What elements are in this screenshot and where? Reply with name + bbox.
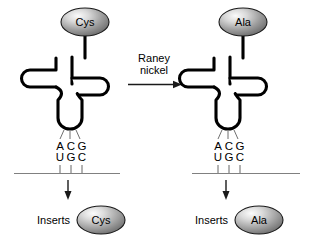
codon-base-2-left: G xyxy=(67,151,76,163)
insertion-arrow-left xyxy=(65,180,72,200)
figure-root: A C G U G C Inserts xyxy=(0,0,310,239)
inserted-amino-acid-oval-right: Ala xyxy=(235,206,283,234)
attached-amino-acid-oval-left: Cys xyxy=(61,8,109,36)
attached-amino-acid-oval-right: Ala xyxy=(219,8,267,36)
trna-cloverleaf-right xyxy=(180,57,267,129)
anticodon-legs-right xyxy=(218,130,238,139)
attached-amino-acid-label-left: Cys xyxy=(76,16,95,28)
inserts-label-left: Inserts xyxy=(37,214,71,226)
codon-base-1-left: U xyxy=(56,151,64,163)
trna-d-arm-left xyxy=(22,58,57,87)
codon-ticks-left xyxy=(60,165,82,173)
insertion-arrow-right xyxy=(223,180,230,200)
inserted-amino-acid-oval-left: Cys xyxy=(77,206,125,234)
trna-d-arm-right xyxy=(180,58,215,87)
panel-right: A C G U G C Inserts Ala xyxy=(180,8,301,234)
reaction-label-line2: nickel xyxy=(140,64,168,76)
inserted-amino-acid-label-left: Cys xyxy=(92,214,111,226)
codon-base-2-right: G xyxy=(225,151,234,163)
codon-base-3-right: C xyxy=(236,151,244,163)
trna-cloverleaf-left xyxy=(22,57,109,129)
reaction-label-line1: Raney xyxy=(138,52,170,64)
codon-base-3-left: C xyxy=(78,151,86,163)
inserted-amino-acid-label-right: Ala xyxy=(251,214,268,226)
reaction-arrow-group: Raney nickel xyxy=(128,52,182,88)
codon-base-1-right: U xyxy=(214,151,222,163)
codon-ticks-right xyxy=(218,165,240,173)
attached-amino-acid-label-right: Ala xyxy=(235,16,252,28)
trna-conversion-diagram: A C G U G C Inserts xyxy=(0,0,310,239)
trna-anticodon-arm-right xyxy=(214,87,240,129)
panel-left: A C G U G C Inserts xyxy=(14,8,125,234)
trna-anticodon-arm-left xyxy=(56,87,82,129)
anticodon-legs-left xyxy=(60,130,80,139)
inserts-label-right: Inserts xyxy=(195,214,229,226)
